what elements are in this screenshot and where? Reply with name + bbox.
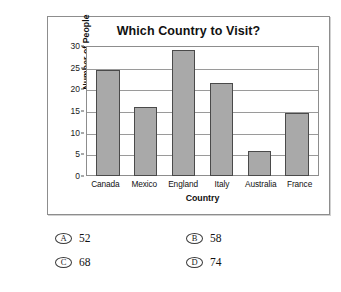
answer-options: A52B58C68D74 bbox=[47, 230, 330, 282]
x-tick-label-australia: Australia bbox=[241, 179, 280, 189]
y-axis-ticks: 051015202530 bbox=[58, 46, 84, 176]
y-tick-label: 5 bbox=[75, 149, 80, 159]
x-tick-label-england: England bbox=[164, 179, 203, 189]
x-tick-label-mexico: Mexico bbox=[125, 179, 164, 189]
bar-canada bbox=[96, 70, 119, 176]
x-axis-tick-labels: CanadaMexicoEnglandItalyAustraliaFrance bbox=[86, 179, 319, 189]
cropped-header-text: · · ·· · bbox=[38, 0, 64, 2]
bar-series bbox=[86, 46, 319, 176]
option-bubble-d[interactable]: D bbox=[186, 257, 203, 268]
x-axis-label: Country bbox=[86, 193, 319, 203]
option-bubble-a[interactable]: A bbox=[55, 233, 72, 244]
bar-slot bbox=[165, 46, 203, 176]
y-tick-mark bbox=[81, 89, 84, 90]
bar-slot bbox=[202, 46, 240, 176]
option-bubble-b[interactable]: B bbox=[186, 233, 203, 244]
y-tick-mark bbox=[81, 176, 84, 177]
option-text-a: 52 bbox=[79, 232, 91, 244]
y-tick-mark bbox=[81, 111, 84, 112]
y-tick-label: 10 bbox=[71, 128, 80, 138]
y-tick-mark bbox=[81, 46, 84, 47]
x-tick-label-france: France bbox=[280, 179, 319, 189]
bar-slot bbox=[89, 46, 127, 176]
answer-option-d[interactable]: D74 bbox=[186, 256, 222, 268]
chart-container: Which Country to Visit? Number of People… bbox=[47, 16, 330, 215]
cropped-header-strip: · · ·· · bbox=[0, 0, 341, 9]
option-text-c: 68 bbox=[79, 256, 91, 268]
x-tick-label-canada: Canada bbox=[86, 179, 125, 189]
bar-england bbox=[172, 50, 195, 176]
bar-mexico bbox=[134, 107, 157, 176]
y-tick-label: 15 bbox=[71, 106, 80, 116]
option-text-b: 58 bbox=[210, 232, 222, 244]
bar-france bbox=[285, 113, 308, 176]
y-tick-mark bbox=[81, 132, 84, 133]
y-tick-mark bbox=[81, 67, 84, 68]
y-tick-label: 0 bbox=[75, 171, 80, 181]
bar-australia bbox=[248, 151, 271, 176]
bar-slot bbox=[278, 46, 316, 176]
option-bubble-c[interactable]: C bbox=[55, 257, 72, 268]
bar-slot bbox=[240, 46, 278, 176]
plot-wrapper bbox=[86, 46, 319, 176]
x-tick-label-italy: Italy bbox=[202, 179, 241, 189]
y-tick-mark bbox=[81, 154, 84, 155]
bar-italy bbox=[210, 83, 233, 176]
y-tick-label: 25 bbox=[71, 63, 80, 73]
y-tick-label: 30 bbox=[71, 41, 80, 51]
answer-option-b[interactable]: B58 bbox=[186, 232, 222, 244]
y-tick-label: 20 bbox=[71, 84, 80, 94]
answer-option-a[interactable]: A52 bbox=[55, 232, 91, 244]
answer-option-c[interactable]: C68 bbox=[55, 256, 91, 268]
option-text-d: 74 bbox=[210, 256, 222, 268]
bar-slot bbox=[127, 46, 165, 176]
